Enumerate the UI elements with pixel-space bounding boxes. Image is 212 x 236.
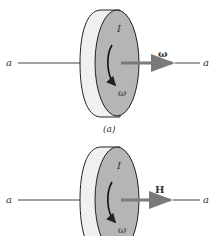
vector-label-b: H [155, 184, 164, 195]
axis-label-right-b: a [203, 194, 209, 205]
diagram-canvas: a a I ω ω (a) a a I ω H [0, 0, 212, 236]
figure-b-disk [18, 147, 200, 236]
figure-a-disk [18, 10, 200, 117]
axis-label-left: a [6, 57, 12, 68]
caption: (a) [103, 124, 116, 134]
axis-label-left-b: a [6, 194, 12, 205]
axis-label-right: a [203, 57, 209, 68]
rotation-label: ω [118, 87, 126, 98]
rotation-label-b: ω [118, 224, 126, 235]
vector-label: ω [158, 48, 168, 59]
